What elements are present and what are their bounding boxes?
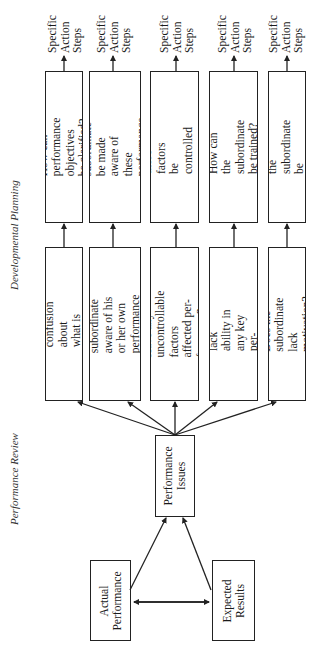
planning-box-control-factors: How can these factors be controlled or e…	[150, 71, 199, 223]
planning-box-clarify: How can performance objectives be clarif…	[45, 71, 83, 223]
outcome-label-2: Specific Action Steps	[96, 15, 134, 53]
review-box-awareness: Is the subordinate aware of his or her o…	[89, 247, 141, 401]
review-box-uncontrollable-factors: Have any uncontrollable factors affected…	[150, 247, 199, 401]
review-question-3: Have any uncontrollable factors affected…	[150, 291, 199, 358]
planning-question-5: How can the subordinate be motivated?	[268, 120, 306, 174]
planning-box-make-aware: How can the subordinate be made aware of…	[89, 71, 141, 223]
outcome-label-4: Specific Action Steps	[217, 15, 255, 53]
outcome-label-1: Specific Action Steps	[47, 15, 85, 53]
review-box-motivation: Does the subordinate lack motivation?	[268, 247, 306, 401]
planning-box-train: How can the subordinate be trained?	[209, 71, 258, 223]
review-question-1: Is there confusion about what is expecte…	[45, 301, 83, 347]
planning-question-2: How can the subordinate be made aware of…	[89, 118, 141, 177]
review-question-4: Does the subordinate lack ability in any…	[209, 297, 258, 351]
planning-question-4: How can the subordinate be trained?	[209, 120, 258, 174]
planning-box-motivate: How can the subordinate be motivated?	[268, 71, 306, 223]
expected-results-label: Expected Results	[220, 579, 247, 622]
performance-issues-box: Performance Issues	[155, 435, 195, 517]
outcome-label-5: Specific Action Steps	[268, 15, 306, 53]
planning-question-1: How can performance objectives be clarif…	[45, 118, 83, 177]
performance-review-label: Performance Review	[8, 433, 20, 525]
planning-question-3: How can these factors be controlled or e…	[150, 120, 199, 174]
review-question-5: Does the subordinate lack motivation?	[268, 296, 306, 351]
developmental-planning-label: Developmental Planning	[8, 180, 20, 290]
expected-results-box: Expected Results	[212, 560, 255, 641]
review-box-ability: Does the subordinate lack ability in any…	[209, 247, 258, 401]
actual-performance-label: Actual Performance	[97, 571, 124, 630]
performance-issues-label: Performance Issues	[162, 446, 189, 505]
actual-performance-box: Actual Performance	[90, 560, 131, 641]
review-box-confusion: Is there confusion about what is expecte…	[45, 247, 83, 401]
review-question-2: Is the subordinate aware of his or her o…	[89, 295, 141, 354]
outcome-label-3: Specific Action Steps	[159, 15, 197, 53]
